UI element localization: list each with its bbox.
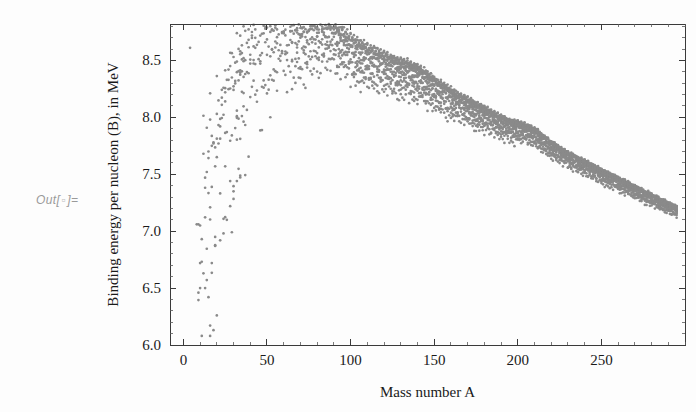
data-point: [269, 25, 272, 28]
data-point: [317, 76, 320, 79]
data-point: [244, 29, 247, 32]
data-point: [276, 28, 279, 31]
data-point: [204, 287, 207, 290]
data-point: [445, 100, 448, 103]
data-point: [215, 113, 218, 116]
data-point: [210, 144, 213, 147]
data-point: [289, 70, 292, 73]
data-point: [623, 178, 626, 181]
data-point: [374, 50, 377, 53]
data-point: [229, 180, 232, 183]
data-point: [321, 25, 324, 28]
data-point: [486, 106, 489, 109]
data-point: [440, 79, 443, 82]
data-point: [296, 46, 299, 49]
data-point: [577, 171, 580, 174]
data-point: [399, 93, 402, 96]
data-point: [353, 34, 356, 37]
data-point: [403, 58, 406, 61]
data-point: [269, 116, 272, 119]
data-point: [262, 86, 265, 89]
data-point: [515, 128, 518, 131]
data-point: [369, 44, 372, 47]
data-point: [346, 33, 349, 36]
data-point: [251, 85, 254, 88]
data-point: [302, 49, 305, 52]
data-point: [262, 32, 265, 35]
data-point: [428, 93, 431, 96]
data-point: [326, 69, 329, 72]
data-point: [311, 73, 314, 76]
data-point: [254, 46, 257, 49]
data-point: [307, 55, 310, 58]
data-point: [292, 32, 295, 35]
data-point: [215, 137, 218, 140]
data-point: [331, 44, 334, 47]
data-point: [558, 162, 561, 165]
data-point: [338, 66, 341, 69]
data-point: [236, 180, 239, 183]
data-point: [343, 61, 346, 64]
data-point: [214, 236, 217, 239]
data-point: [386, 83, 389, 86]
data-point: [232, 198, 235, 201]
data-point: [232, 89, 235, 92]
data-point: [297, 57, 300, 60]
data-point: [299, 77, 302, 80]
data-point: [416, 99, 419, 102]
data-point: [302, 31, 305, 34]
data-point: [200, 238, 203, 241]
data-point: [249, 58, 252, 61]
data-point: [343, 26, 346, 29]
data-point: [242, 25, 245, 28]
data-point: [231, 134, 234, 137]
data-point: [404, 88, 407, 91]
data-point: [189, 46, 192, 49]
data-point: [525, 138, 528, 141]
data-point: [232, 56, 235, 59]
data-point: [296, 61, 299, 64]
data-point: [210, 262, 213, 265]
data-point: [289, 39, 292, 42]
data-point: [610, 186, 613, 189]
data-point: [378, 92, 381, 95]
data-point: [307, 43, 310, 46]
data-point: [234, 82, 237, 85]
data-point: [261, 129, 264, 132]
data-point: [508, 142, 511, 145]
data-point: [249, 53, 252, 56]
data-point: [440, 101, 443, 104]
data-point: [334, 54, 337, 57]
data-point: [316, 35, 319, 38]
data-point: [237, 168, 240, 171]
data-point: [478, 123, 481, 126]
data-point: [236, 115, 239, 118]
data-point: [224, 216, 227, 219]
data-point: [481, 129, 484, 132]
data-point: [309, 58, 312, 61]
data-point: [418, 85, 421, 88]
data-point: [521, 140, 524, 143]
data-point: [266, 54, 269, 57]
data-point: [242, 92, 245, 95]
data-point: [239, 34, 242, 37]
data-point: [359, 66, 362, 69]
data-point: [413, 91, 416, 94]
data-point: [205, 126, 208, 129]
data-point: [316, 52, 319, 55]
data-point: [309, 70, 312, 73]
data-point: [612, 188, 615, 191]
data-point: [242, 76, 245, 79]
data-point: [451, 101, 454, 104]
data-point: [441, 93, 444, 96]
data-point: [321, 43, 324, 46]
data-point: [252, 59, 255, 62]
data-point: [205, 247, 208, 250]
data-point: [291, 30, 294, 33]
data-point: [341, 29, 344, 32]
data-point: [398, 99, 401, 102]
data-point: [254, 93, 257, 96]
data-point: [204, 186, 207, 189]
data-point: [413, 85, 416, 88]
data-point: [269, 55, 272, 58]
